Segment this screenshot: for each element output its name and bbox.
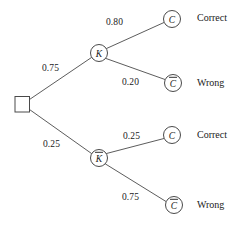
outcome-label-wrong-2: Wrong [197, 199, 224, 210]
probability-label-k-c: 0.80 [106, 17, 123, 27]
outcome-label-correct-1: Correct [197, 12, 227, 23]
node-c-upper: C [164, 11, 181, 28]
node-c-bar-lower-label: C [171, 201, 178, 211]
branch-line-root-knot [30, 110, 92, 154]
node-root-square [15, 97, 30, 113]
probability-label-k-bar-c-bar: 0.75 [122, 192, 139, 202]
probability-label-k-bar-c: 0.25 [123, 131, 140, 141]
node-k-bar: K [91, 150, 108, 167]
probability-label-root-k-bar: 0.25 [43, 139, 60, 149]
branch-line-root-k [30, 58, 92, 100]
node-k-label: K [95, 49, 103, 59]
node-c-bar-upper: C [165, 75, 182, 92]
node-c-lower: C [164, 127, 181, 144]
probability-label-root-k: 0.75 [42, 63, 59, 73]
outcome-label-correct-2: Correct [197, 129, 227, 140]
outcome-label-wrong-1: Wrong [197, 77, 224, 88]
probability-tree-figure: K K C C C C 0.75 [0, 0, 247, 229]
probability-label-k-c-bar: 0.20 [122, 77, 139, 87]
node-c-lower-label: C [169, 131, 176, 141]
node-k-bar-label: K [95, 154, 103, 164]
node-k: K [91, 45, 108, 62]
node-c-bar-upper-label: C [170, 79, 177, 89]
node-c-upper-label: C [169, 15, 176, 25]
node-c-bar-lower: C [166, 197, 183, 214]
